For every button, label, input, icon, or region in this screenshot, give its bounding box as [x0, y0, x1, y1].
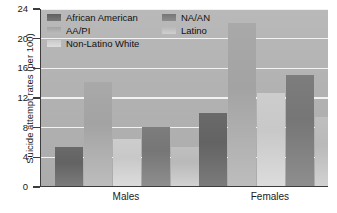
- y-axis-tick: [33, 157, 40, 158]
- legend-label: NA/AN: [181, 12, 210, 23]
- y-axis-tick-label: 4: [0, 151, 28, 162]
- bar: [315, 117, 328, 186]
- chart-legend: African AmericanNA/ANAA/PILatinoNon-Lati…: [47, 11, 247, 50]
- bar: [55, 147, 83, 186]
- x-axis-category-label: Females: [220, 191, 320, 202]
- y-axis-tick: [33, 38, 40, 39]
- gridline: [41, 9, 328, 10]
- legend-label: African American: [66, 12, 138, 23]
- legend-label: AA/PI: [66, 25, 90, 36]
- legend-swatch-icon: [47, 27, 61, 34]
- legend-item: Latino: [162, 25, 207, 36]
- y-axis-tick: [33, 97, 40, 98]
- gridline: [41, 68, 328, 69]
- legend-swatch-icon: [162, 27, 176, 34]
- legend-row: African AmericanNA/AN: [47, 11, 247, 24]
- legend-item: African American: [47, 12, 162, 23]
- y-axis-tick: [33, 68, 40, 69]
- y-axis-tick-label: 0: [0, 181, 28, 192]
- bar: [171, 147, 199, 186]
- legend-swatch-icon: [162, 14, 176, 21]
- y-axis-tick-label: 16: [0, 62, 28, 73]
- legend-item: Non-Latino White: [47, 38, 162, 49]
- bar: [84, 82, 112, 186]
- y-axis-tick: [33, 186, 40, 187]
- bar: [113, 139, 141, 186]
- legend-row: AA/PILatino: [47, 24, 247, 37]
- y-axis-tick: [33, 8, 40, 9]
- legend-swatch-icon: [47, 40, 61, 47]
- y-axis-tick-label: 12: [0, 92, 28, 103]
- y-axis-tick-label: 8: [0, 122, 28, 133]
- legend-label: Non-Latino White: [66, 38, 139, 49]
- y-axis-tick-label: 24: [0, 3, 28, 14]
- bar: [286, 75, 314, 186]
- legend-row: Non-Latino White: [47, 37, 247, 50]
- bar-chart-figure: Suicide attempt rates (per 100) 04812162…: [0, 0, 337, 213]
- x-axis-category-label: Males: [76, 191, 176, 202]
- bar: [199, 113, 227, 186]
- legend-item: AA/PI: [47, 25, 162, 36]
- legend-swatch-icon: [47, 14, 61, 21]
- legend-label: Latino: [181, 25, 207, 36]
- y-axis-tick-label: 20: [0, 33, 28, 44]
- bar: [142, 127, 170, 186]
- legend-item: NA/AN: [162, 12, 210, 23]
- bar: [257, 93, 285, 186]
- y-axis-tick: [33, 127, 40, 128]
